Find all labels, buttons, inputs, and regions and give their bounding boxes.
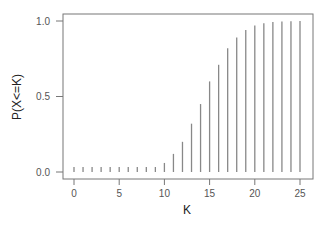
y-tick-label: 0.5 [36,91,50,102]
y-tick-label: 1.0 [36,16,50,27]
y-axis-label: P(X<=K) [10,74,24,120]
x-tick-label: 10 [159,188,171,199]
x-axis: 0510152025 [71,179,306,199]
x-tick-label: 0 [71,188,77,199]
x-tick-label: 25 [294,188,306,199]
bars [74,21,300,172]
x-tick-label: 5 [116,188,122,199]
y-axis: 0.00.51.0 [36,16,63,178]
cdf-chart: 0.00.51.0 0510152025 K P(X<=K) [0,0,334,228]
x-tick-label: 15 [204,188,216,199]
x-tick-label: 20 [249,188,261,199]
x-axis-label: K [183,203,191,217]
y-tick-label: 0.0 [36,167,50,178]
plot-frame [63,14,313,179]
